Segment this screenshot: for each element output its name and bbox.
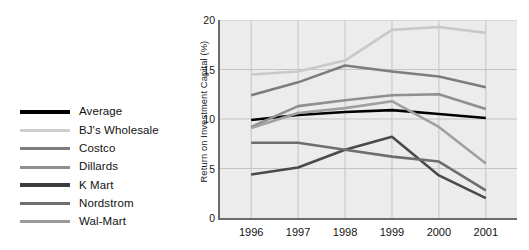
legend-swatch xyxy=(20,202,70,205)
legend-label: Nordstrom xyxy=(79,198,134,210)
chart-legend: AverageBJ's WholesaleCostcoDillardsK Mar… xyxy=(20,103,180,231)
legend-label: Wal-Mart xyxy=(79,216,126,228)
legend-item: Wal-Mart xyxy=(20,213,180,231)
legend-swatch xyxy=(20,110,70,114)
legend-label: Average xyxy=(79,106,122,118)
y-axis-tick-label: 0 xyxy=(209,212,215,224)
legend-swatch xyxy=(20,183,70,187)
plot-wrapper: 05101520199619971998199920002001 xyxy=(218,8,529,250)
chart-figure: AverageBJ's WholesaleCostcoDillardsK Mar… xyxy=(0,0,529,250)
legend-swatch xyxy=(20,166,70,169)
plot-area: 05101520199619971998199920002001 xyxy=(218,20,517,220)
legend-swatch xyxy=(20,147,70,150)
legend-label: Costco xyxy=(79,143,115,155)
legend-item: K Mart xyxy=(20,176,180,194)
x-axis-tick-label: 2000 xyxy=(427,226,451,238)
y-axis-tick-label: 10 xyxy=(203,113,215,125)
y-axis-tick-label: 5 xyxy=(209,163,215,175)
x-axis-tick-label: 1996 xyxy=(239,226,263,238)
series-line xyxy=(251,143,486,191)
legend-item: Costco xyxy=(20,140,180,158)
series-lines xyxy=(220,20,517,218)
x-axis-tick-label: 1999 xyxy=(380,226,404,238)
x-axis-tick-label: 2001 xyxy=(474,226,498,238)
legend-item: Nordstrom xyxy=(20,194,180,212)
line-chart: Return on Investment Capital (%) 0510152… xyxy=(182,8,529,250)
y-axis-tick-label: 20 xyxy=(203,14,215,26)
legend-label: BJ's Wholesale xyxy=(79,125,159,137)
legend-label: K Mart xyxy=(79,180,113,192)
legend-item: BJ's Wholesale xyxy=(20,121,180,139)
legend-label: Dillards xyxy=(79,161,118,173)
legend-item: Dillards xyxy=(20,158,180,176)
legend-swatch xyxy=(20,220,70,223)
legend-swatch xyxy=(20,129,70,132)
y-axis-tick-label: 15 xyxy=(203,64,215,76)
legend-item: Average xyxy=(20,103,180,121)
x-axis-tick-label: 1998 xyxy=(333,226,357,238)
x-axis-tick-label: 1997 xyxy=(286,226,310,238)
